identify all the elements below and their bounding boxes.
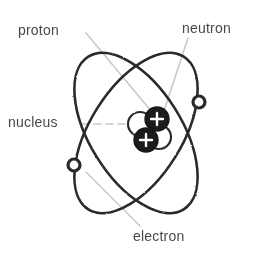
label-neutron: neutron (182, 20, 231, 36)
leader-line-proton (86, 33, 152, 112)
label-nucleus: nucleus (8, 114, 58, 130)
atom-diagram: proton neutron nucleus electron (0, 0, 271, 262)
electron-upper-right (193, 96, 205, 108)
nucleus-cluster (128, 107, 171, 152)
label-proton: proton (18, 22, 59, 38)
electron-lower-left (68, 159, 80, 171)
label-electron: electron (133, 228, 184, 244)
atom-diagram-canvas (0, 0, 271, 262)
